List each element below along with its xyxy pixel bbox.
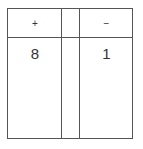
minus-value: 1 xyxy=(80,45,133,62)
header-divider xyxy=(8,37,132,38)
minus-header: − xyxy=(80,18,133,29)
tally-table: + − 8 1 xyxy=(7,8,133,139)
plus-value: 8 xyxy=(8,45,62,62)
plus-header: + xyxy=(8,18,62,29)
